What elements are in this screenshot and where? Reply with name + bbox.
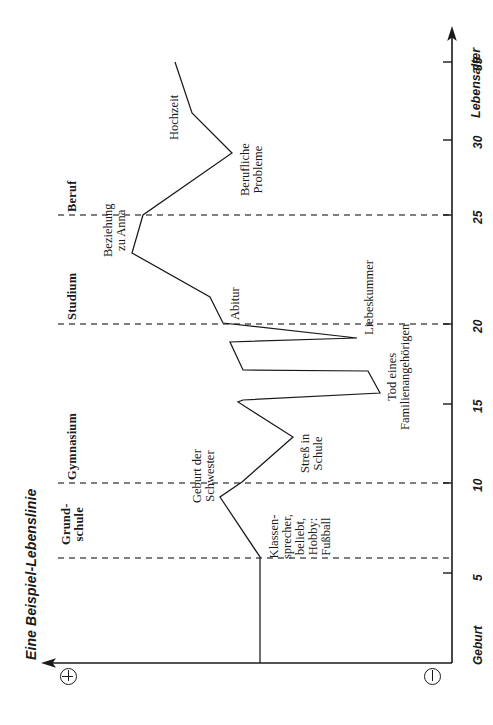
value-axis [41, 658, 452, 668]
phase-label-gymnasium: Gymnasium [66, 413, 79, 480]
age-axis-ticks [443, 62, 452, 573]
event-label-abitur: Abitur [229, 287, 242, 320]
event-label-stress-schule: Streß in Schule [299, 434, 325, 473]
phase-label-beruf: Beruf [66, 180, 79, 212]
chart-canvas [0, 0, 493, 725]
age-axis [443, 26, 457, 663]
axis-tick-25: 25 [472, 211, 484, 224]
event-label-klassensprecher: Klassen- sprecher, beliebt, Hobby: Fußba… [268, 514, 333, 559]
phase-label-studium: Studium [66, 273, 79, 320]
lifeline-chart: Eine Beispiel-Lebenslinie Lebensalter Ge… [0, 0, 493, 725]
event-label-geburt-schwester: Geburt der Schwester [191, 449, 217, 503]
chart-title: Eine Beispiel-Lebenslinie [24, 489, 39, 660]
negative-pole-icon [424, 668, 441, 685]
event-label-berufliche-probleme: Berufliche Probleme [239, 143, 265, 196]
event-label-beziehung-anna: Beziehung zu Anna [102, 204, 128, 257]
event-label-hochzeit: Hochzeit [168, 95, 181, 140]
axis-tick-10: 10 [472, 479, 484, 492]
axis-tick-20: 20 [472, 320, 484, 333]
axis-tick-geburt: Geburt [472, 626, 484, 665]
axis-tick-5: 5 [472, 574, 484, 581]
event-label-tod-familienangehoeriger: Tod eines Familienangehörigen [386, 324, 412, 430]
axis-tick-35: 35 [472, 58, 484, 71]
axis-tick-30: 30 [472, 136, 484, 149]
positive-pole-icon [60, 668, 77, 685]
phase-label-grundschule: Grund- schule [60, 504, 86, 546]
axis-tick-15: 15 [472, 400, 484, 413]
event-label-liebeskummer: Liebeskummer [363, 260, 376, 335]
